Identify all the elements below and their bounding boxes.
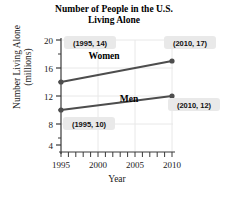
series-women-point-2010 [169, 58, 174, 63]
y-tick-label-4: 4 [49, 141, 54, 151]
x-tick-label-1995: 1995 [52, 160, 71, 170]
x-tick-label-2005: 2005 [126, 160, 145, 170]
y-axis-label: Number Living Alone (millions) [12, 2, 34, 132]
annotation-men-2010-text: (2010, 12) [177, 101, 212, 110]
series-women-point-1995 [58, 79, 63, 84]
x-axis-tick-labels: 1995 2000 2005 2010 [52, 160, 182, 170]
y-axis-tick-labels: 20 16 12 8 4 [44, 36, 54, 151]
y-tick-label-8: 8 [49, 120, 54, 130]
series-men-point-2010 [169, 93, 174, 98]
y-tick-label-20: 20 [44, 36, 54, 46]
y-tick-label-12: 12 [44, 92, 53, 102]
x-axis-label: Year [61, 174, 173, 184]
annotation-women-1995-text: (1995, 14) [73, 39, 108, 48]
annotation-men-1995-text: (1995, 10) [72, 120, 107, 129]
series-label-women: Women [88, 51, 120, 61]
annotation-women-2010-text: (2010, 17) [173, 39, 208, 48]
series-men-point-1995 [58, 107, 63, 112]
chart-figure: Number of People in the U.S. Living Alon… [0, 0, 225, 197]
x-tick-label-2000: 2000 [89, 160, 108, 170]
annotation-women-2010: (2010, 17) [164, 36, 216, 49]
series-label-men: Men [120, 94, 139, 104]
x-axis-minor-ticks [61, 152, 172, 157]
y-axis-label-line-2: (millions) [23, 48, 33, 85]
annotation-men-1995: (1995, 10) [63, 117, 115, 130]
y-axis-label-line-1: Number Living Alone [12, 25, 22, 109]
annotation-men-2010: (2010, 12) [168, 98, 220, 111]
y-tick-label-16: 16 [44, 64, 54, 74]
annotation-women-1995: (1995, 14) [64, 36, 116, 49]
x-tick-label-2010: 2010 [163, 160, 182, 170]
y-axis-major-ticks [56, 40, 61, 145]
